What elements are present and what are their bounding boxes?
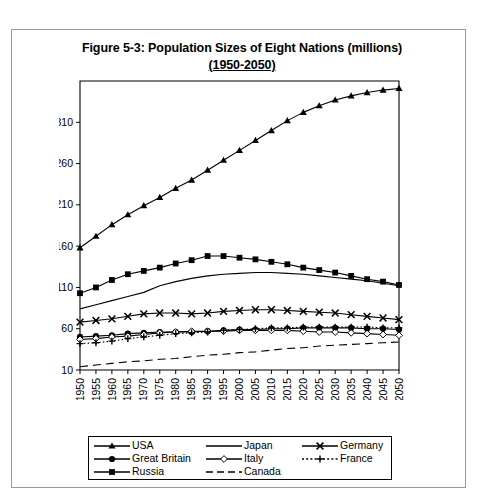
series-usa [77,85,403,251]
data-point-marker [253,256,259,262]
x-axis-tick-label: 1980 [169,378,181,400]
legend-grid: USAJapanGermanyGreat BritainItalyFranceR… [89,437,391,478]
x-axis-tick-label: 1950 [74,378,86,400]
data-point-marker [109,338,116,345]
legend-empty-cell [301,465,397,478]
legend-swatch-cross-x [301,440,339,452]
x-axis-tick-label: 1970 [137,378,149,400]
legend-swatch-line [205,440,243,452]
chart-title-line-1: Figure 5-3: Population Sizes of Eight Na… [42,40,442,57]
tick-labels-layer: 1060110160210260310195019551960196519701… [59,116,405,400]
legend-swatch-line [205,466,243,478]
data-point-marker [332,270,338,276]
x-axis-tick-label: 1965 [121,378,133,400]
legend-item-italy: Italy [205,452,301,465]
data-point-marker [93,339,100,346]
legend-item-russia: Russia [93,465,205,478]
chart-title: Figure 5-3: Population Sizes of Eight Na… [42,40,442,74]
figure-frame: Figure 5-3: Population Sizes of Eight Na… [11,29,466,488]
data-point-marker [157,265,163,271]
series-line [80,88,399,247]
data-point-marker [140,202,147,208]
legend-label: Japan [244,439,273,452]
data-point-marker [141,268,147,274]
legend-label: Russia [132,465,164,478]
data-point-marker [156,194,163,200]
y-axis-tick-label: 10 [61,364,73,376]
legend-swatch-plus [301,453,339,465]
y-axis-tick-label: 160 [59,240,73,252]
data-point-marker [252,137,259,143]
x-axis-tick-label: 2000 [233,378,245,400]
data-point-marker [348,273,354,279]
legend-label: Germany [340,439,383,452]
data-point-marker [204,167,211,173]
data-point-marker [396,282,402,288]
data-point-marker [77,244,84,250]
legend-label: USA [132,439,154,452]
data-point-marker [317,455,324,462]
x-axis-tick-label: 2015 [281,378,293,400]
legend-item-france: France [301,452,397,465]
x-axis-tick-label: 2040 [361,378,373,400]
data-point-marker [172,185,179,191]
legend-label: France [340,452,373,465]
chart-legend: USAJapanGermanyGreat BritainItalyFranceR… [88,436,392,480]
legend-item-germany: Germany [301,439,397,452]
data-point-marker [364,276,370,282]
legend-swatch-square-filled [93,466,131,478]
data-point-marker [300,265,306,271]
data-point-marker [109,277,115,283]
series-germany [77,306,403,325]
data-point-marker [77,340,84,347]
x-axis-tick-label: 2035 [345,378,357,400]
legend-label: Great Britain [132,452,191,465]
x-axis-tick-label: 1990 [201,378,213,400]
data-point-marker [284,261,290,267]
x-axis-tick-label: 1995 [217,378,229,400]
data-point-marker [284,117,291,123]
data-point-marker [189,257,195,263]
legend-item-great-britain: Great Britain [93,452,205,465]
legend-label: Canada [244,465,281,478]
x-axis-tick-label: 1960 [106,378,118,400]
x-axis-tick-label: 2050 [393,378,405,400]
x-axis-tick-label: 2005 [249,378,261,400]
data-point-marker [236,147,243,153]
x-axis-tick-label: 1985 [185,378,197,400]
data-point-marker [173,261,179,267]
data-point-marker [221,455,228,462]
data-point-marker [364,330,371,337]
data-point-marker [124,211,131,217]
data-point-marker [205,253,211,259]
y-axis-tick-label: 110 [59,281,73,293]
legend-swatch-triangle [93,440,131,452]
legend-swatch-diamond-open [205,453,243,465]
data-point-marker [316,267,322,273]
y-axis-tick-label: 210 [59,198,73,210]
data-point-marker [77,290,83,296]
data-point-marker [268,127,275,133]
x-axis-tick-label: 2030 [329,378,341,400]
data-point-marker [221,253,227,259]
legend-item-japan: Japan [205,439,301,452]
plot-area: 1060110160210260310195019551960196519701… [59,75,411,400]
series-line [80,342,399,367]
series-layer [77,85,403,367]
x-axis-tick-label: 2010 [265,378,277,400]
data-point-marker [237,255,243,261]
data-point-marker [188,176,195,182]
legend-item-usa: USA [93,439,205,452]
x-axis-tick-label: 1975 [153,378,165,400]
y-axis-tick-label: 60 [61,322,73,334]
data-point-marker [396,85,403,91]
x-axis-tick-label: 2025 [313,378,325,400]
data-point-marker [93,285,99,291]
legend-item-canada: Canada [205,465,301,478]
data-point-marker [269,259,275,265]
chart-title-line-2: (1950-2050) [42,57,442,74]
data-point-marker [396,332,403,339]
data-point-marker [108,221,115,227]
data-point-marker [109,455,115,461]
x-axis-tick-label: 2045 [377,378,389,400]
